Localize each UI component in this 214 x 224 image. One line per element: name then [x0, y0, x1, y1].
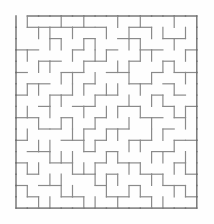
- maze-page: [0, 0, 214, 224]
- maze-canvas: [0, 0, 214, 224]
